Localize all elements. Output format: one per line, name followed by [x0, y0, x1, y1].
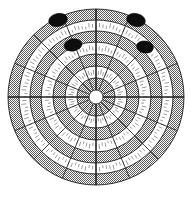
polar-target-diagram — [0, 0, 192, 200]
figure-root — [0, 0, 192, 200]
center-hub — [89, 90, 103, 104]
